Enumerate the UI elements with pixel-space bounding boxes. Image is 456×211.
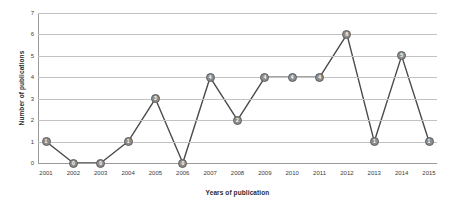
data-point-marker: 0 — [69, 159, 78, 168]
y-tick-label: 0 — [6, 160, 34, 166]
y-tick-label: 1 — [6, 139, 34, 145]
publications-line-chart: Number of publications 01234567 10013042… — [0, 0, 456, 211]
gridline — [38, 77, 437, 78]
data-point-marker: 4 — [206, 73, 215, 82]
gridline — [38, 99, 437, 100]
y-tick-label: 3 — [6, 96, 34, 102]
y-axis-tick-labels: 01234567 — [0, 13, 34, 163]
x-axis-title: Years of publication — [38, 189, 437, 196]
gridline — [38, 34, 437, 35]
x-axis-tick-labels: 2001200220032004200520062007200820092010… — [38, 170, 437, 182]
plot-area: 100130424446151 — [38, 13, 437, 163]
y-tick-label: 5 — [6, 53, 34, 59]
y-tick-label: 2 — [6, 117, 34, 123]
data-point-marker: 1 — [370, 137, 379, 146]
gridline — [38, 56, 437, 57]
y-tick-label: 6 — [6, 31, 34, 37]
gridline — [38, 13, 437, 14]
data-point-marker: 0 — [96, 159, 105, 168]
x-tick-label: 2015 — [409, 170, 449, 176]
data-point-marker: 1 — [425, 137, 434, 146]
data-point-marker: 4 — [315, 73, 324, 82]
y-tick-label: 4 — [6, 74, 34, 80]
data-point-marker: 0 — [178, 159, 187, 168]
data-point-marker: 4 — [288, 73, 297, 82]
y-tick-label: 7 — [6, 10, 34, 16]
data-point-marker: 1 — [124, 137, 133, 146]
data-point-marker: 2 — [233, 116, 242, 125]
data-point-marker: 1 — [42, 137, 51, 146]
